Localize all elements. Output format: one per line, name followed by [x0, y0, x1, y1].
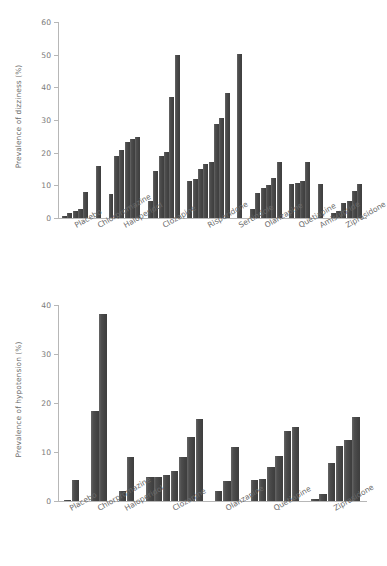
- bar: [67, 213, 72, 218]
- bar: [223, 481, 231, 501]
- bar: [231, 447, 239, 501]
- bar: [171, 471, 179, 501]
- chart-panel-hypotension: Prevalence of hypotension (%) 010203040 …: [0, 283, 380, 566]
- y-tick-mark: 0: [54, 218, 59, 219]
- bar: [169, 97, 174, 218]
- bar: [209, 162, 214, 218]
- y-axis-label-dizziness: Prevalence of dizziness (%): [14, 37, 23, 197]
- bar: [277, 162, 282, 219]
- y-tick-label: 10: [41, 181, 51, 190]
- bar: [300, 181, 305, 218]
- bar: [267, 467, 275, 501]
- y-tick-mark: 0: [54, 501, 59, 502]
- plot-area-dizziness: 0102030405060: [58, 22, 367, 219]
- y-tick-label: 60: [41, 18, 51, 27]
- bar: [179, 457, 187, 501]
- bar: [91, 411, 99, 501]
- bar: [225, 93, 230, 218]
- bar: [344, 440, 352, 501]
- plot-area-hypotension: 010203040: [58, 305, 367, 502]
- bar: [175, 55, 180, 218]
- y-tick-label: 30: [41, 350, 51, 359]
- y-tick-label: 20: [41, 148, 51, 157]
- bar-series-hypotension: [59, 305, 367, 501]
- y-axis-label-hypotension: Prevalence of hypotension (%): [14, 320, 23, 480]
- bar: [214, 124, 219, 218]
- bar: [99, 314, 107, 501]
- y-tick-label: 50: [41, 50, 51, 59]
- bar: [284, 431, 292, 501]
- bar: [219, 118, 224, 218]
- bar: [311, 499, 319, 501]
- bar-series-dizziness: [59, 22, 367, 218]
- y-tick-label: 10: [41, 448, 51, 457]
- y-tick-label: 30: [41, 116, 51, 125]
- y-tick-label: 0: [46, 214, 51, 223]
- bar: [305, 162, 310, 218]
- y-tick-label: 40: [41, 301, 51, 310]
- bar: [64, 500, 72, 501]
- bar: [73, 211, 78, 219]
- bar: [319, 494, 327, 501]
- bar: [164, 152, 169, 218]
- bar: [336, 446, 344, 501]
- bar: [215, 491, 223, 501]
- bar: [328, 463, 336, 501]
- y-tick-label: 20: [41, 399, 51, 408]
- y-tick-label: 0: [46, 497, 51, 506]
- y-tick-label: 40: [41, 83, 51, 92]
- bar: [237, 54, 242, 218]
- bar: [275, 456, 283, 501]
- bar: [62, 216, 67, 218]
- chart-panel-dizziness: Prevalence of dizziness (%) 010203040506…: [0, 0, 380, 283]
- bar: [198, 169, 203, 218]
- bar: [203, 164, 208, 218]
